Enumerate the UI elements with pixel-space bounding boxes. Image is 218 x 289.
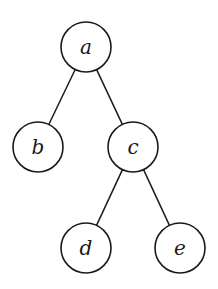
node-label: c [127, 135, 138, 159]
edge-c-e [144, 170, 170, 226]
tree-diagram: abcde [0, 0, 218, 289]
node-label: d [80, 236, 93, 260]
tree-node-d: d [61, 223, 111, 273]
edge-a-c [97, 70, 123, 125]
node-label: e [174, 236, 186, 260]
node-label: a [80, 35, 92, 59]
tree-node-a: a [61, 22, 111, 72]
node-label: b [32, 135, 45, 159]
edge-c-d [97, 170, 123, 226]
tree-node-b: b [13, 122, 63, 172]
edge-a-b [49, 70, 75, 125]
tree-node-c: c [108, 122, 158, 172]
tree-node-e: e [155, 223, 205, 273]
nodes-layer: abcde [13, 22, 205, 273]
